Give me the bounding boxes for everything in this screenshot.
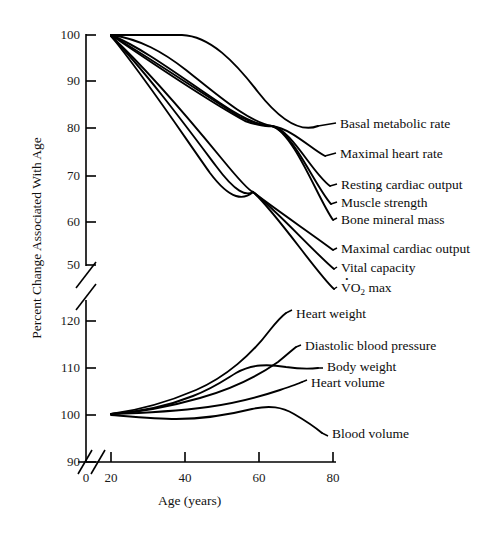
y-tick-label-100: 100 [40, 28, 80, 41]
leader-blood-volume [322, 433, 328, 436]
series-label-muscle-strength: Muscle strength [341, 196, 428, 210]
leader-basal-metabolic-rate [318, 123, 336, 126]
leader-vital-capacity [334, 267, 337, 269]
series-label-heart-volume: Heart volume [311, 376, 385, 390]
curve-muscle-strength [111, 35, 331, 204]
leader-diastolic-blood-pressure [296, 345, 301, 347]
y-tick-label-80: 80 [40, 121, 80, 134]
series-label-diastolic-blood-pressure: Diastolic blood pressure [305, 339, 436, 353]
curve-basal-metabolic-rate [111, 35, 318, 128]
leader-resting-cardiac-output [330, 184, 337, 186]
leader-maximal-heart-rate [325, 153, 336, 156]
figure-container: Percent Change Associated With Age Age (… [0, 0, 492, 543]
series-label-maximal-heart-rate: Maximal heart rate [340, 147, 443, 161]
curve-diastolic-blood-pressure [111, 347, 296, 414]
leader-bone-mineral-mass [333, 218, 337, 220]
v-dot-glyph: V [341, 280, 351, 295]
y-tick-label-60: 60 [40, 215, 80, 228]
y-tick-label-100-lower: 100 [36, 408, 80, 421]
leader-heart-weight [286, 310, 292, 313]
upper-panel-curves [111, 35, 334, 289]
curve-maximal-cardiac-output [111, 36, 333, 250]
y-tick-label-120: 120 [36, 314, 80, 327]
series-label-basal-metabolic-rate: Basal metabolic rate [340, 117, 450, 131]
series-label-vital-capacity: Vital capacity [341, 261, 416, 275]
series-label-bone-mineral-mass: Bone mineral mass [341, 213, 444, 227]
x-axis-title: Age (years) [158, 493, 221, 509]
leader-heart-volume [302, 380, 307, 382]
series-label-blood-volume: Blood volume [332, 427, 409, 441]
series-label-maximal-cardiac-output: Maximal cardiac output [341, 242, 470, 256]
x-tick-label-20: 20 [91, 471, 131, 484]
y-tick-label-110: 110 [36, 361, 80, 374]
leader-vo2-max [334, 287, 337, 289]
series-label-resting-cardiac-output: Resting cardiac output [341, 178, 462, 192]
x-tick-label-40: 40 [165, 471, 205, 484]
series-label-vo2-max: VO2 max [341, 281, 392, 295]
leader-maximal-cardiac-output [333, 248, 337, 250]
y-tick-label-90: 90 [40, 74, 80, 87]
leader-lines-lower [286, 310, 328, 436]
y-tick-label-90-lower: 90 [36, 455, 80, 468]
series-label-heart-weight: Heart weight [296, 307, 366, 321]
curve-maximal-heart-rate [111, 35, 325, 156]
lower-panel-curves [111, 313, 322, 433]
y-tick-label-50: 50 [40, 258, 80, 271]
x-tick-label-60: 60 [239, 471, 279, 484]
series-label-body-weight: Body weight [327, 360, 396, 374]
y-tick-label-70: 70 [40, 169, 80, 182]
leader-muscle-strength [331, 202, 337, 204]
x-tick-label-80: 80 [313, 471, 353, 484]
